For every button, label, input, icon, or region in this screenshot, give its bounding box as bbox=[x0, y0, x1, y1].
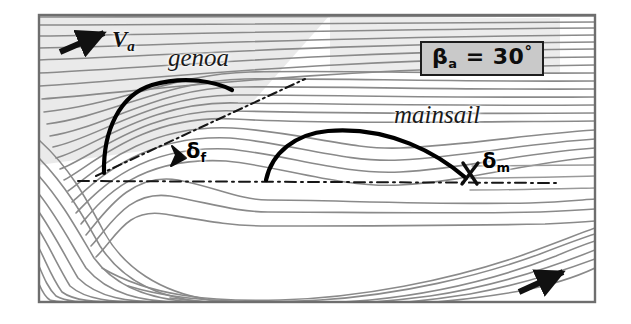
beta-equals: = bbox=[458, 44, 493, 69]
figure-root: Va genoa mainsail δf δm βa = 30° bbox=[0, 0, 631, 324]
apparent-wind-symbol: V bbox=[112, 27, 127, 52]
genoa-label: genoa bbox=[168, 45, 229, 70]
genoa-angle-symbol: δ bbox=[186, 139, 200, 163]
beta-degree-symbol: ° bbox=[524, 43, 532, 61]
beta-value: 30 bbox=[493, 44, 525, 69]
apparent-wind-angle-box: βa = 30° bbox=[420, 41, 544, 76]
apparent-wind-label: Va bbox=[112, 28, 135, 54]
mainsail-angle-label: δm bbox=[482, 151, 510, 174]
beta-symbol: β bbox=[432, 44, 448, 69]
apparent-wind-subscript: a bbox=[127, 38, 135, 54]
mainsail-label: mainsail bbox=[394, 102, 480, 127]
genoa-angle-label: δf bbox=[186, 141, 206, 164]
mainsail-angle-subscript: m bbox=[496, 160, 510, 175]
genoa-angle-subscript: f bbox=[200, 150, 206, 165]
mainsail-angle-symbol: δ bbox=[482, 149, 496, 173]
beta-subscript: a bbox=[448, 56, 457, 71]
